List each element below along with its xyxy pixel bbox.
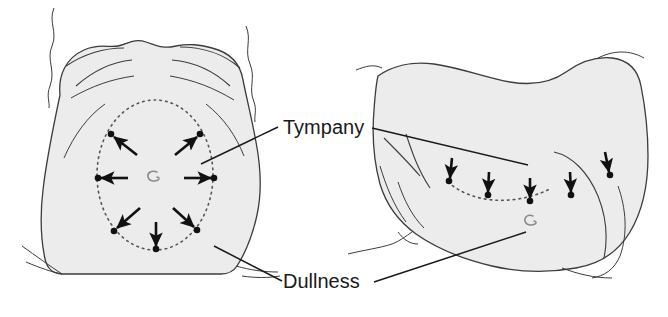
boundary-dot-l3 (527, 198, 534, 205)
boundary-dot-nw (108, 131, 115, 138)
boundary-dot-e (211, 175, 218, 182)
boundary-dot-s (153, 246, 160, 253)
boundary-dot-l1 (446, 178, 453, 185)
boundary-dot-sw (111, 228, 118, 235)
figure-container: Tympany Dullness (0, 0, 668, 317)
dullness-label: Dullness (283, 270, 360, 292)
boundary-dot-w (95, 175, 102, 182)
boundary-dot-l4 (568, 192, 575, 199)
boundary-dot-ne (197, 131, 204, 138)
boundary-dot-l2 (485, 192, 492, 199)
tympany-label: Tympany (283, 116, 364, 138)
boundary-dot-l5 (607, 172, 614, 179)
percussion-arrow-2 (488, 172, 489, 192)
abdominal-percussion-illustration: Tympany Dullness (0, 0, 668, 317)
boundary-dot-se (194, 227, 201, 234)
panel-lateral-decubitus-view (348, 52, 648, 278)
abdomen-silhouette-anterior (41, 41, 260, 274)
percussion-arrow-4 (570, 172, 571, 192)
